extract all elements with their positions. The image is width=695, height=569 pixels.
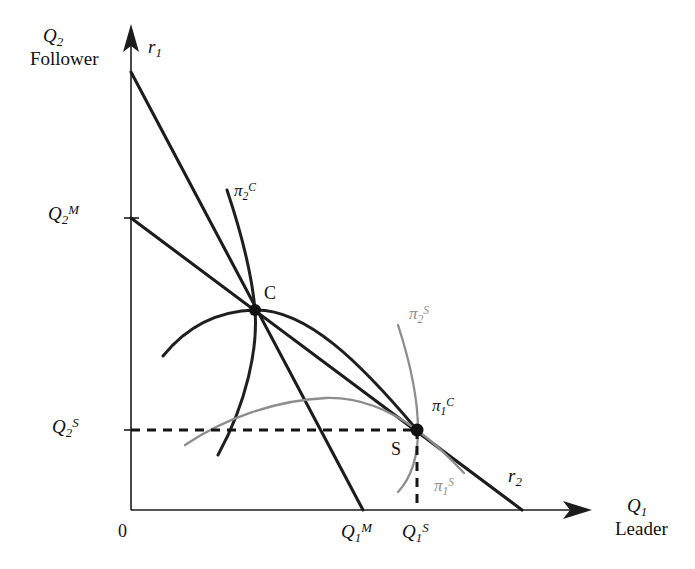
isoprofit-curve-pi2C [218, 190, 255, 455]
y-axis-sub: 2 [57, 34, 63, 49]
y-mark-stackelberg-label: Q2S [52, 416, 79, 440]
x-mark-monopoly-label: Q1M [341, 521, 372, 545]
x-axis-role-label: Leader [615, 519, 668, 540]
reaction-line-r2 [131, 218, 522, 510]
reaction-label-r1: r1 [148, 37, 162, 60]
y-axis-symbol: Q [43, 25, 57, 46]
stackelberg-cournot-figure: Q2 Follower Q1 Leader 0 Q2M Q2S Q1M Q1S … [0, 0, 695, 569]
stackelberg-point-label: S [391, 440, 401, 459]
y-axis-title: Q2 [43, 26, 63, 49]
y-axis-role-label: Follower [30, 49, 99, 70]
isoprofit-label-pi2S: π2S [409, 305, 429, 326]
isoprofit-label-pi1S: π1S [434, 477, 454, 498]
reaction-label-r2: r2 [508, 466, 522, 489]
x-axis-title: Q1 [627, 496, 647, 519]
cournot-point-label: C [264, 284, 276, 303]
cournot-point-marker [249, 304, 261, 316]
x-mark-stackelberg-label: Q1S [402, 521, 429, 545]
isoprofit-curve-pi2S [398, 325, 418, 492]
x-axis-symbol: Q [627, 495, 641, 516]
x-axis-sub: 1 [641, 504, 647, 519]
isoprofit-label-pi1C: π1C [432, 397, 454, 418]
origin-label: 0 [118, 522, 127, 541]
y-mark-monopoly-label: Q2M [48, 203, 79, 227]
plot-canvas [0, 0, 695, 569]
reaction-line-r1 [131, 72, 363, 510]
stackelberg-point-marker [411, 424, 424, 437]
isoprofit-label-pi2C: π2C [234, 182, 256, 203]
